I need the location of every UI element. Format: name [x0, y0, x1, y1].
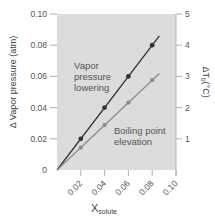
y-tick-label: 0.04 — [30, 103, 47, 113]
boiling-point-point — [126, 101, 130, 105]
y-axis-title: Δ Vapor pressure (atm) — [8, 36, 18, 128]
y-tick-label: 0.02 — [30, 134, 47, 144]
y-axis-right: 12345 — [176, 9, 190, 176]
chart: 00.020.040.060.080.10 12345 0.020.040.06… — [0, 0, 215, 222]
x-tick-label: 0.10 — [161, 178, 180, 197]
y-tick-label: 0.10 — [30, 9, 47, 19]
vapor-pressure-point — [78, 136, 83, 141]
y-tick-label: 0.08 — [30, 40, 47, 50]
boiling-point-point — [103, 123, 107, 127]
y2-tick-label: 1 — [185, 134, 190, 144]
boiling-point-annotation: elevation — [114, 136, 152, 147]
x-tick-label: 0.08 — [137, 178, 156, 197]
vapor-pressure-point — [102, 105, 107, 110]
y2-tick-label: 5 — [185, 9, 190, 19]
y2-tick-label: 2 — [185, 103, 190, 113]
y-axis-left: 00.020.040.060.080.10 — [30, 9, 57, 175]
x-tick-label: 0.02 — [65, 178, 84, 197]
x-axis: 0.020.040.060.080.10 — [65, 170, 179, 197]
vapor-pressure-point — [126, 74, 131, 79]
vapor-pressure-annotation: Vapor — [74, 60, 99, 71]
y-tick-label: 0.06 — [30, 71, 47, 81]
vapor-pressure-point — [150, 43, 155, 48]
vapor-pressure-annotation: lowering — [74, 82, 109, 93]
vapor-pressure-annotation: pressure — [74, 71, 111, 82]
y-tick-label: 0 — [42, 165, 47, 175]
y2-tick-label: 3 — [185, 71, 190, 81]
y2-tick-label: 4 — [185, 40, 190, 50]
x-axis-title: Xsolute — [91, 202, 117, 215]
boiling-point-point — [150, 78, 154, 82]
y2-axis-title: ΔTb(°C) — [200, 66, 211, 97]
boiling-point-annotation: Boiling point — [114, 125, 166, 136]
x-tick-label: 0.06 — [113, 178, 132, 197]
x-tick-label: 0.04 — [89, 178, 108, 197]
boiling-point-point — [79, 145, 83, 149]
